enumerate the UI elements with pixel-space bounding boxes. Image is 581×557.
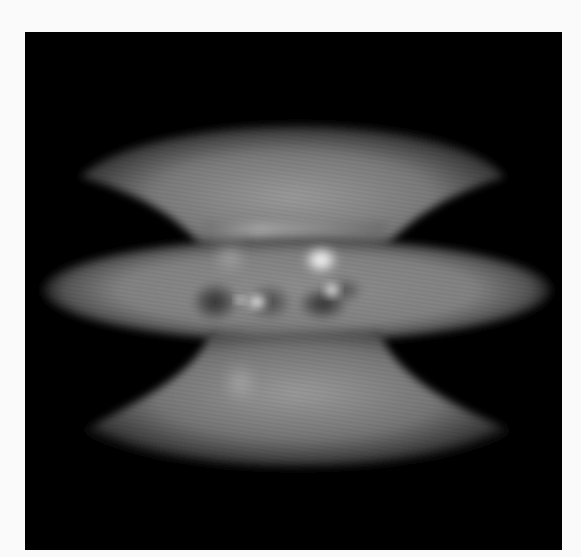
render-image [25,32,562,550]
wormhole-render [25,32,562,550]
bottom-surface [80,332,515,468]
page [0,0,581,557]
middle-disk [43,238,551,342]
